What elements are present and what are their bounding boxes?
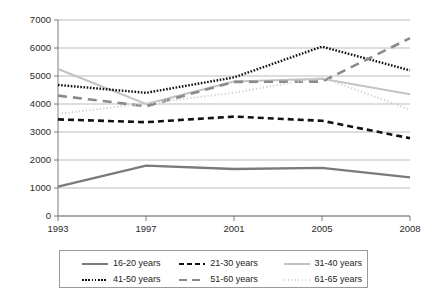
- legend-row: 41-50 years 51-60 years 61-65 years: [60, 271, 367, 287]
- legend-item-21-30-years: 21-30 years: [179, 258, 283, 268]
- y-tick-label: 7000: [30, 14, 51, 25]
- x-tick-label: 1997: [135, 223, 156, 234]
- line-chart: 01000200030004000500060007000 1993199720…: [0, 0, 425, 298]
- legend-swatch-icon: [179, 259, 205, 268]
- y-tick-label: 3000: [30, 126, 51, 137]
- y-axis-tick-labels: 01000200030004000500060007000: [30, 14, 51, 221]
- legend-item-51-60-years: 51-60 years: [179, 274, 283, 284]
- legend-label: 61-65 years: [315, 274, 363, 284]
- x-tick-label: 2008: [399, 223, 420, 234]
- legend-label: 16-20 years: [113, 258, 161, 268]
- series-line-21-30-years: [58, 117, 410, 139]
- axes-group: [54, 20, 410, 221]
- legend-item-61-65-years: 61-65 years: [284, 274, 367, 284]
- y-tick-label: 2000: [30, 154, 51, 165]
- legend-item-41-50-years: 41-50 years: [60, 274, 179, 284]
- series-lines-group: [58, 38, 410, 186]
- legend-swatch-icon: [284, 259, 310, 268]
- x-tick-label: 1993: [47, 223, 68, 234]
- chart-legend: 16-20 years 21-30 years 31-40 years 41-5…: [59, 250, 368, 288]
- y-tick-label: 1000: [30, 182, 51, 193]
- y-tick-label: 0: [46, 210, 51, 221]
- series-line-31-40-years: [58, 69, 410, 104]
- legend-swatch-icon: [82, 275, 108, 284]
- series-line-61-65-years: [58, 77, 410, 113]
- legend-label: 21-30 years: [210, 258, 258, 268]
- x-axis-tick-labels: 19931997200120052008: [47, 223, 420, 234]
- series-line-51-60-years: [58, 38, 410, 106]
- legend-label: 41-50 years: [113, 274, 161, 284]
- legend-row: 16-20 years 21-30 years 31-40 years: [60, 255, 367, 271]
- legend-swatch-icon: [179, 275, 205, 284]
- x-tick-label: 2005: [311, 223, 332, 234]
- legend-item-16-20-years: 16-20 years: [60, 258, 179, 268]
- y-tick-label: 6000: [30, 42, 51, 53]
- series-line-16-20-years: [58, 166, 410, 187]
- legend-item-31-40-years: 31-40 years: [284, 258, 367, 268]
- legend-label: 31-40 years: [315, 258, 363, 268]
- gridlines-group: [58, 20, 410, 216]
- x-tick-label: 2001: [223, 223, 244, 234]
- legend-swatch-icon: [82, 259, 108, 268]
- y-tick-label: 5000: [30, 70, 51, 81]
- legend-swatch-icon: [284, 275, 310, 284]
- legend-label: 51-60 years: [210, 274, 258, 284]
- y-tick-label: 4000: [30, 98, 51, 109]
